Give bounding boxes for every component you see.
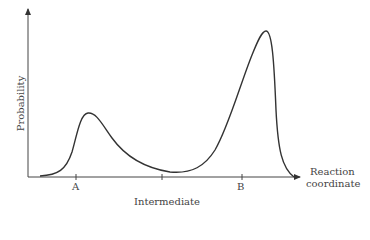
x-axis-label-line2: coordinate (306, 178, 360, 189)
tick-label-intermediate: Intermediate (134, 196, 200, 207)
probability-curve (40, 31, 294, 177)
clipped-caption (0, 212, 370, 217)
tick-label-a: A (72, 181, 79, 192)
tick-label-b: B (237, 181, 244, 192)
x-axis-label-line1: Reaction (310, 166, 355, 177)
y-axis-label: Probability (15, 74, 26, 134)
